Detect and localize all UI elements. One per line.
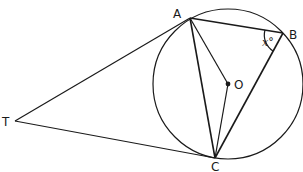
center-dot <box>226 82 231 87</box>
label-b: B <box>289 28 297 42</box>
label-o: O <box>234 78 243 92</box>
chord-bc <box>215 33 283 158</box>
chord-ab <box>190 18 283 33</box>
angle-label-x: x° <box>262 36 274 49</box>
label-c: C <box>211 160 219 172</box>
label-t: T <box>1 115 10 129</box>
label-a: A <box>173 7 182 21</box>
geometry-diagram: A B C O T x° <box>0 0 303 172</box>
tangent-ta <box>15 18 190 121</box>
tangent-tc <box>15 121 215 158</box>
